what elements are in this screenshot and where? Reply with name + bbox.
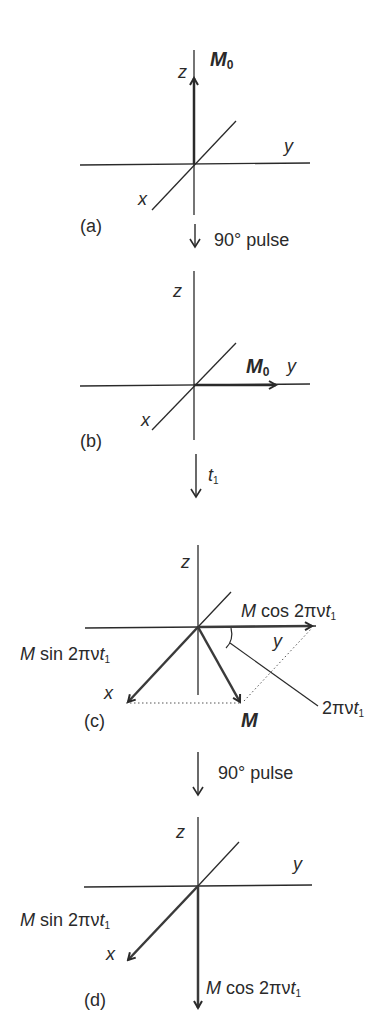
transition-label: 90° pulse [218, 763, 293, 783]
z-axis-label: z [180, 552, 190, 572]
z-axis-label: z [172, 281, 182, 301]
m0-label: M0 [246, 355, 270, 379]
x-axis-label: x [103, 683, 114, 703]
panel-label-c: (c) [84, 711, 105, 731]
angle-label: 2πνt1 [322, 698, 364, 719]
x-axis-label: x [105, 944, 116, 964]
z-axis-label: z [177, 62, 187, 82]
m-vector-label: M [241, 709, 259, 731]
x-axis-label: x [140, 410, 151, 430]
panel-label-a: (a) [80, 216, 102, 236]
m-cos-label: M cos 2πνt1 [241, 601, 336, 622]
panel-label-b: (b) [80, 431, 102, 451]
m0-label: M0 [210, 48, 234, 72]
x-axis-back [198, 842, 239, 886]
m-vector-arrow [198, 627, 240, 702]
m-sin-component-arrow [128, 627, 198, 702]
transition-90-pulse-1: 90° pulse [195, 224, 289, 250]
m-sin-label: M sin 2πνt1 [20, 644, 110, 665]
transition-label: 90° pulse [214, 230, 289, 250]
angle-leader-line [230, 643, 318, 706]
x-axis-label: x [137, 189, 148, 209]
transition-90-pulse-2: 90° pulse [198, 752, 293, 795]
y-axis-label: y [291, 854, 303, 874]
y-axis-label: y [285, 356, 297, 376]
angle-arc [226, 628, 232, 648]
panel-a: z y x M0 (a) [80, 48, 310, 236]
z-axis-label: z [175, 822, 185, 842]
magnetization-diagram: z y x M0 (a) 90° pulse z y x M0 (b) t1 [0, 0, 389, 1028]
y-axis-label: y [282, 136, 294, 156]
y-axis-label: y [271, 631, 283, 651]
m-sin-component-arrow [128, 886, 198, 960]
m-sin-label: M sin 2πνt1 [20, 910, 110, 931]
panel-c: z y x M cos 2πνt1 M sin 2πνt1 2πνt1 M (c… [20, 545, 364, 731]
panel-label-d: (d) [84, 990, 106, 1010]
panel-d: z y x M sin 2πνt1 M cos 2πνt1 (d) [20, 817, 312, 1010]
m-cos-component-arrow [198, 626, 312, 627]
x-axis-back [198, 592, 231, 627]
m-cos-label: M cos 2πνt1 [206, 978, 301, 999]
transition-label: t1 [208, 465, 219, 486]
transition-t1: t1 [196, 454, 219, 497]
panel-b: z y x M0 (b) [80, 271, 310, 451]
